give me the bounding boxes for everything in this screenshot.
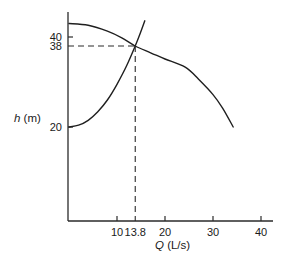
- y-tick-label: 20: [50, 121, 62, 133]
- x-tick-label: 40: [255, 226, 267, 238]
- x-tick-label: 20: [159, 226, 171, 238]
- x-tick-label: 13.8: [125, 226, 146, 238]
- curves: [69, 21, 233, 127]
- pump-system-chart: 1013.8203040 203840 h (m) Q (L/s): [0, 0, 292, 262]
- x-ticks: 1013.8203040: [111, 216, 267, 238]
- x-tick-label: 10: [111, 226, 123, 238]
- pump-curve-line: [69, 24, 233, 128]
- operating-point-guides: [68, 46, 135, 221]
- y-axis-label: h (m): [14, 112, 41, 124]
- system-curve-line: [69, 21, 145, 127]
- axes: [68, 12, 273, 221]
- x-axis-label: Q (L/s): [155, 239, 190, 251]
- y-tick-label: 40: [50, 31, 62, 43]
- x-tick-label: 30: [207, 226, 219, 238]
